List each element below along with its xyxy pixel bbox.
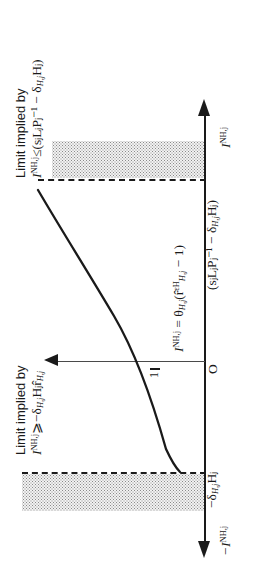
lower-limit-delta-sub: H,j	[36, 398, 45, 408]
tick-label-lower: −δH,jHⱼ	[205, 472, 220, 508]
upper-limit-expression-end: Hⱼ)	[29, 60, 44, 76]
lower-limit-relation: ⩾	[29, 422, 44, 434]
upper-limit-expression-sub: H,j	[36, 76, 45, 86]
curve-equation-paren: (r̂	[171, 291, 186, 300]
upper-limit-expression: (sⱼLⱼPⱼ⁻¹ − δ	[29, 86, 44, 149]
upper-limit-caption-line2: INH,j≤(sⱼLⱼPⱼ⁻¹ − δH,jHⱼ)	[30, 60, 45, 178]
tick-label-lower-sub: H,j	[211, 484, 220, 494]
lower-limit-rhat-sub: H,j	[36, 371, 45, 381]
upper-limit-caption-line1: Limit implied by	[14, 88, 27, 178]
tick-label-upper-end: Hⱼ)	[204, 200, 219, 216]
tick-label-upper: (sⱼLⱼPⱼ⁻¹ − δH,jHⱼ)	[205, 200, 220, 290]
figure-canvas: Limit implied by INH,j≤(sⱼLⱼPⱼ⁻¹ − δH,jH…	[0, 0, 254, 564]
origin-label: O	[206, 364, 220, 374]
axis-label-positive: INH,j	[219, 127, 233, 148]
upper-limit-I: INH,j	[29, 157, 44, 178]
tick-label-lower-tail: Hⱼ	[204, 472, 219, 484]
curve-equation-tail: − 1)	[171, 245, 186, 271]
upper-limit-relation: ≤	[29, 150, 44, 157]
curve-equation-r-sup: ε	[172, 287, 181, 291]
curve-equation-theta-sub: H,j	[178, 300, 187, 310]
tick-label-upper-sub: H,j	[211, 216, 220, 226]
lower-limit-H: Hⱼ	[29, 386, 44, 398]
tick-label-upper-expr: (sⱼLⱼPⱼ⁻¹ − δ	[204, 227, 219, 290]
curve-equation-r-sup-sub: H	[172, 281, 181, 287]
tick-label-lower-prefix: −δ	[204, 494, 219, 508]
curve-equation-I: INH,j	[171, 331, 186, 352]
lower-limit-caption-line2: INH,j⩾−δH,jHⱼr̂H,j	[30, 371, 45, 455]
axis-label-negative: −INH,j	[219, 526, 233, 556]
lower-limit-I: INH,j	[29, 434, 44, 455]
lower-limit-rhat: r̂	[29, 381, 44, 386]
curve-equation-label: INH,j = θH,j(r̂εHH,j − 1)	[172, 245, 187, 352]
curve-equation-eq: = θ	[171, 310, 186, 331]
lower-limit-caption-line1: Limit implied by	[14, 365, 27, 455]
tick-label-one: 1	[148, 372, 160, 378]
curve-equation-r-sub: H,j	[178, 271, 187, 281]
lower-limit-delta: −δ	[29, 408, 44, 422]
